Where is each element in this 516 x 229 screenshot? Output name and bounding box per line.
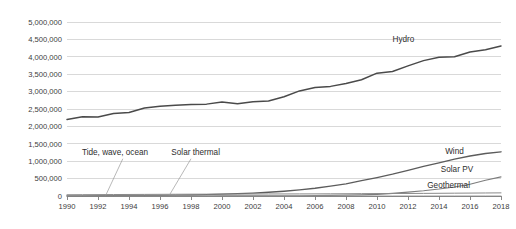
y-tick-label: 3,000,000 <box>28 87 62 96</box>
chart-canvas: 0500,0001,000,0001,500,0002,000,0002,500… <box>0 0 516 229</box>
series-label-wind: Wind <box>445 147 464 156</box>
y-tick-label: 5,000,000 <box>28 18 62 27</box>
series-label-hydro: Hydro <box>393 35 415 44</box>
annotation-text-group: Tide, wave, oceanSolar thermal <box>82 148 220 157</box>
renewable-generation-line-chart: 0500,0001,000,0001,500,0002,000,0002,500… <box>0 0 516 229</box>
series-lines-group <box>67 46 501 196</box>
x-tick-label: 2002 <box>245 202 262 211</box>
leader-line <box>169 159 191 196</box>
y-tick-label: 500,000 <box>35 174 62 183</box>
x-tick-label: 2016 <box>462 202 479 211</box>
leader-line <box>106 159 123 196</box>
x-tick-label: 2018 <box>493 202 510 211</box>
x-tick-label: 2004 <box>276 202 293 211</box>
x-tick-label: 2012 <box>400 202 417 211</box>
annotation-label-solar-thermal: Solar thermal <box>171 148 220 157</box>
series-label-geothermal: Geothermal <box>427 181 470 190</box>
gridlines-group <box>67 22 501 196</box>
x-tick-label: 2014 <box>431 202 448 211</box>
y-tick-label: 0 <box>58 192 62 201</box>
x-axis-tick-labels: 1990199219941996199820002002200420062008… <box>59 202 510 211</box>
annotation-label-tide-wave-ocean: Tide, wave, ocean <box>82 148 149 157</box>
x-tick-label: 1996 <box>152 202 169 211</box>
y-tick-label: 4,000,000 <box>28 53 62 62</box>
x-tick-label: 1994 <box>121 202 138 211</box>
y-tick-label: 1,000,000 <box>28 157 62 166</box>
y-tick-label: 1,500,000 <box>28 140 62 149</box>
x-tick-label: 2010 <box>369 202 386 211</box>
y-tick-label: 4,500,000 <box>28 35 62 44</box>
x-tick-label: 1998 <box>183 202 200 211</box>
y-tick-label: 3,500,000 <box>28 70 62 79</box>
x-tick-label: 1992 <box>90 202 107 211</box>
x-tick-label: 1990 <box>59 202 76 211</box>
y-tick-label: 2,500,000 <box>28 105 62 114</box>
x-tick-label: 2008 <box>338 202 355 211</box>
series-line-geothermal <box>67 193 501 195</box>
series-label-solar-pv: Solar PV <box>441 165 474 174</box>
annotation-leader-lines <box>106 159 191 196</box>
x-tick-label: 2000 <box>214 202 231 211</box>
y-tick-label: 2,000,000 <box>28 122 62 131</box>
x-tick-label: 2006 <box>307 202 324 211</box>
y-axis-tick-labels: 0500,0001,000,0001,500,0002,000,0002,500… <box>28 18 62 201</box>
